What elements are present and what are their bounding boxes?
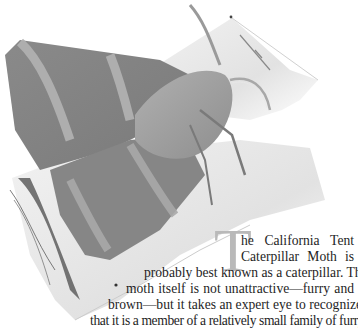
text-line-3: probably best known as a caterpillar. Th… bbox=[144, 265, 354, 281]
text-line-1: he California Tent bbox=[241, 233, 354, 249]
book-page: T he California Tent Caterpillar Moth is… bbox=[0, 0, 358, 333]
text-line-4: moth itself is not unattractive—furry an… bbox=[126, 281, 354, 297]
text-line-2: Caterpillar Moth is bbox=[241, 249, 354, 265]
text-line-6: that it is a member of a relatively smal… bbox=[90, 313, 354, 329]
article-body: T he California Tent Caterpillar Moth is… bbox=[0, 0, 358, 333]
text-line-5: brown—but it takes an expert eye to reco… bbox=[108, 297, 354, 313]
